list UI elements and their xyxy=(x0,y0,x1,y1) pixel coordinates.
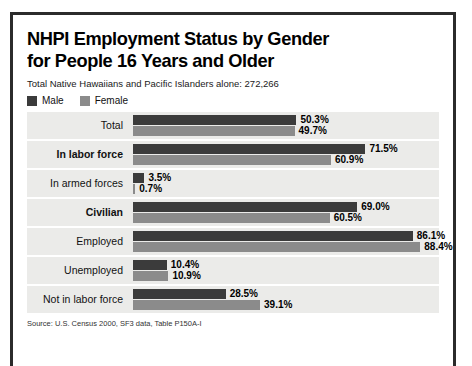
chart-row: Not in labor force28.5%39.1% xyxy=(27,286,439,313)
bar-female-value: 49.7% xyxy=(299,125,327,137)
bar-male xyxy=(133,260,167,270)
row-plot: 86.1%88.4% xyxy=(133,228,439,255)
chart-row: Civilian69.0%60.5% xyxy=(27,199,439,226)
row-label: Civilian xyxy=(27,199,128,226)
bar-female-value: 39.1% xyxy=(264,299,292,311)
chart-title-line-2: for People 16 Years and Older xyxy=(27,51,423,71)
row-plot: 50.3%49.7% xyxy=(133,112,439,139)
chart-row: In labor force71.5%60.9% xyxy=(27,141,439,168)
bar-female xyxy=(133,126,295,136)
bar-female xyxy=(133,242,420,252)
bar-female xyxy=(133,271,168,281)
row-plot: 69.0%60.5% xyxy=(133,199,439,226)
chart-title: NHPI Employment Status by Gender for Peo… xyxy=(27,29,439,71)
chart-row: In armed forces3.5%0.7% xyxy=(27,170,439,197)
legend-swatch-female xyxy=(80,96,90,106)
chart-inner: NHPI Employment Status by Gender for Peo… xyxy=(13,15,453,366)
bar-female-value: 60.5% xyxy=(334,212,362,224)
bar-male xyxy=(133,202,357,212)
bar-female xyxy=(133,300,260,310)
bar-female xyxy=(133,155,331,165)
legend-item: Male xyxy=(27,95,64,106)
row-label: Total xyxy=(27,112,128,139)
bar-male xyxy=(133,115,296,125)
chart-legend: MaleFemale xyxy=(27,94,439,107)
bar-female-value: 0.7% xyxy=(139,183,162,195)
bar-male xyxy=(133,144,365,154)
bar-female-value: 60.9% xyxy=(335,154,363,166)
row-label: Unemployed xyxy=(27,257,128,284)
chart-source: Source: U.S. Census 2000, SF3 data, Tabl… xyxy=(27,319,439,328)
row-plot: 71.5%60.9% xyxy=(133,141,439,168)
chart-rows: Total50.3%49.7%In labor force71.5%60.9%I… xyxy=(27,112,439,313)
bar-female-value: 10.9% xyxy=(172,270,200,282)
bar-female-value: 88.4% xyxy=(424,241,452,253)
bar-male xyxy=(133,231,413,241)
row-label: Not in labor force xyxy=(27,286,128,313)
bar-male-value: 28.5% xyxy=(230,288,258,300)
legend-swatch-male xyxy=(27,96,37,106)
row-label: Employed xyxy=(27,228,128,255)
chart-subtitle: Total Native Hawaiians and Pacific Islan… xyxy=(27,78,439,89)
bar-male-value: 71.5% xyxy=(369,143,397,155)
bar-male xyxy=(133,289,226,299)
chart-title-line-1: NHPI Employment Status by Gender xyxy=(27,29,423,49)
row-plot: 3.5%0.7% xyxy=(133,170,439,197)
bar-male-value: 69.0% xyxy=(361,201,389,213)
row-label: In labor force xyxy=(27,141,128,168)
row-plot: 28.5%39.1% xyxy=(133,286,439,313)
bar-female xyxy=(133,213,330,223)
legend-item: Female xyxy=(80,95,128,106)
chart-row: Unemployed10.4%10.9% xyxy=(27,257,439,284)
chart-frame: NHPI Employment Status by Gender for Peo… xyxy=(10,12,456,366)
row-plot: 10.4%10.9% xyxy=(133,257,439,284)
chart-row: Total50.3%49.7% xyxy=(27,112,439,139)
bar-female xyxy=(133,184,135,194)
row-label: In armed forces xyxy=(27,170,128,197)
legend-label: Male xyxy=(42,95,64,106)
chart-row: Employed86.1%88.4% xyxy=(27,228,439,255)
legend-label: Female xyxy=(95,95,128,106)
bar-male xyxy=(133,173,144,183)
